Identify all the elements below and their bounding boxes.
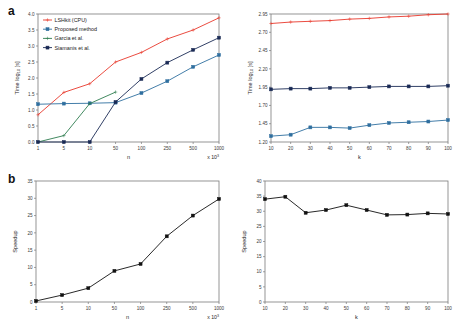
x-tick-label: 40 (327, 146, 333, 151)
data-point (447, 212, 450, 215)
y-tick-label: 20 (256, 239, 262, 244)
x-tick-label: 100 (137, 306, 145, 311)
y-tick-label: 30 (256, 209, 262, 214)
x-tick-label: 100 (444, 146, 452, 151)
legend-label: Siamanis et al. (55, 45, 90, 51)
data-point (166, 61, 169, 64)
plot-frame (36, 181, 219, 302)
x-tick-label: 10 (262, 306, 268, 311)
y-tick-label: 2.45 (259, 48, 268, 53)
x-tick-label: 30 (303, 306, 309, 311)
x-tick-label: 20 (283, 306, 289, 311)
x-tick-label: 20 (288, 146, 294, 151)
y-tick-label: 1.45 (259, 121, 268, 126)
x-tick-label: 10 (86, 306, 92, 311)
svg-text:Speedup: Speedup (241, 230, 247, 252)
y-tick-label: 1.95 (259, 85, 268, 90)
data-point (113, 269, 116, 272)
y-tick-label: 2.95 (259, 12, 268, 17)
x-tick-label: 5 (63, 146, 66, 151)
y-tick-label: 0.5 (28, 124, 35, 129)
y-tick-label: 2.20 (259, 67, 268, 72)
data-point (447, 84, 450, 87)
y-tick-label: 5 (30, 282, 33, 287)
data-point (37, 103, 40, 106)
y-tick-label: 4.0 (28, 12, 35, 17)
data-point (46, 28, 49, 31)
series-3 (270, 119, 450, 138)
x-axis-multiplier: x 103 (207, 314, 219, 320)
y-tick-label: 10 (27, 265, 33, 270)
chart-a-left: 0.00.51.01.52.02.53.03.54.01510501002505… (0, 8, 229, 170)
series-2 (37, 53, 221, 105)
x-tick-label: 1 (35, 306, 38, 311)
data-point (46, 46, 49, 49)
x-tick-label: 100 (138, 146, 146, 151)
y-tick-label: 35 (256, 194, 262, 199)
data-point (264, 198, 267, 201)
y-tick-label: 0 (259, 300, 262, 305)
x-axis-title: n (126, 314, 129, 320)
data-point (191, 214, 194, 217)
x-axis-multiplier: x 103 (207, 154, 219, 160)
series-4 (37, 36, 221, 143)
data-point (447, 119, 450, 122)
x-tick-label: 70 (386, 146, 392, 151)
y-tick-label: 0 (30, 300, 33, 305)
data-point (61, 294, 64, 297)
x-tick-label: 5 (61, 306, 64, 311)
y-tick-label: 0.0 (28, 140, 35, 145)
x-axis-title: k (355, 314, 358, 320)
x-tick-label: 100 (444, 306, 452, 311)
data-point (218, 53, 221, 56)
y-axis-title: Time log10 [s] (247, 61, 254, 94)
chart-svg: 051015202530351510501002505001000nSpeedu… (0, 175, 229, 330)
data-point (35, 299, 38, 302)
data-point (345, 204, 348, 207)
data-point (140, 92, 143, 95)
data-point (165, 235, 168, 238)
chart-legend: LSHkit (CPU)Proposed methodGarcia et al.… (43, 17, 97, 51)
series-1 (35, 197, 221, 302)
x-tick-label: 50 (113, 146, 119, 151)
y-axis-title: Speedup (241, 230, 247, 252)
data-point (407, 85, 410, 88)
x-tick-label: 1000 (214, 146, 225, 151)
chart-svg: 1.201.451.701.952.202.452.702.9510203040… (229, 8, 458, 170)
data-point (427, 85, 430, 88)
y-tick-label: 15 (256, 254, 262, 259)
data-point (218, 197, 221, 200)
plot-frame (38, 14, 219, 142)
data-point (284, 195, 287, 198)
data-point (386, 213, 389, 216)
x-tick-label: 500 (189, 306, 197, 311)
data-point (62, 102, 65, 105)
x-tick-label: 60 (364, 306, 370, 311)
y-tick-label: 5 (259, 285, 262, 290)
data-point (388, 121, 391, 124)
data-point (309, 126, 312, 129)
x-tick-label: 90 (426, 146, 432, 151)
data-point (309, 87, 312, 90)
x-tick-label: 40 (323, 306, 329, 311)
data-point (37, 141, 40, 144)
svg-text:Time log10 [s]: Time log10 [s] (247, 61, 254, 94)
data-point (270, 135, 273, 138)
x-tick-label: 1000 (214, 306, 225, 311)
data-point (348, 86, 351, 89)
series-line (38, 55, 219, 104)
chart-a-right: 1.201.451.701.952.202.452.702.9510203040… (229, 8, 458, 170)
data-point (426, 212, 429, 215)
legend-label: Garcia et al. (55, 35, 84, 41)
data-point (218, 36, 221, 39)
y-axis-title: Time log10 [s] (14, 61, 21, 94)
data-point (270, 88, 273, 91)
data-point (139, 262, 142, 265)
data-point (329, 86, 332, 89)
series-line (265, 197, 448, 215)
data-point (62, 141, 65, 144)
x-tick-label: 10 (268, 146, 274, 151)
data-point (325, 209, 328, 212)
x-tick-label: 60 (367, 146, 373, 151)
y-tick-label: 2.70 (259, 30, 268, 35)
